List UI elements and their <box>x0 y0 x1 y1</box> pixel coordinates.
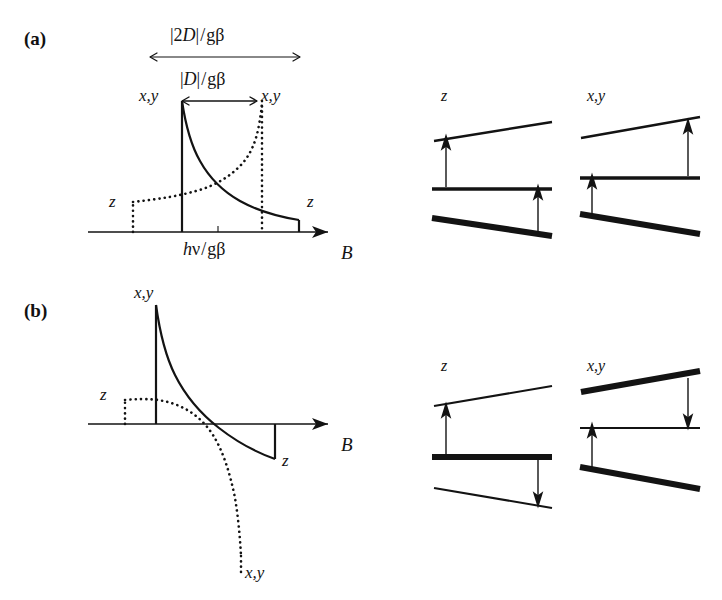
level-set-b-z <box>432 386 552 508</box>
figure-root: (a) <box>0 0 722 600</box>
level-set-b-xy <box>580 371 700 489</box>
level-line-b-z-top <box>434 386 552 406</box>
transition-arrow-b-xy-2 <box>588 424 596 468</box>
transition-arrow-b-xy-1 <box>684 378 692 428</box>
level-line-b-xy-bottom <box>580 467 700 489</box>
level-line-b-xy-top <box>581 371 700 392</box>
panel-b-level-diagrams <box>0 0 722 600</box>
transition-arrow-b-z-1 <box>442 404 450 455</box>
transition-arrow-b-z-2 <box>534 459 542 506</box>
level-line-b-z-bottom <box>434 488 552 508</box>
